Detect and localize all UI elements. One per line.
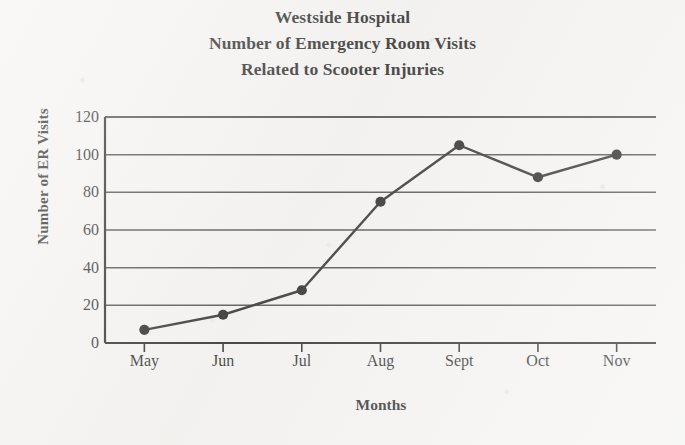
x-axis-tick-labels: MayJunJulAugSeptOctNov <box>0 352 685 378</box>
data-point-Jun <box>218 310 228 320</box>
x-tick-label-Jun: Jun <box>212 352 234 370</box>
x-axis-ticks <box>144 343 616 352</box>
data-point-Oct <box>533 172 543 182</box>
data-point-Aug <box>375 197 385 207</box>
data-point-Jul <box>297 285 307 295</box>
series-line-er-visits <box>144 145 616 330</box>
data-point-May <box>139 325 149 335</box>
x-tick-label-Sept: Sept <box>445 352 473 370</box>
x-axis-title: Months <box>105 396 657 414</box>
data-point-Nov <box>612 150 622 160</box>
x-tick-label-May: May <box>130 352 159 370</box>
x-tick-label-Oct: Oct <box>526 352 549 370</box>
data-series-line <box>144 145 616 330</box>
line-chart-figure: Westside Hospital Number of Emergency Ro… <box>0 0 685 445</box>
x-tick-label-Jul: Jul <box>292 352 311 370</box>
plot-area <box>0 0 685 445</box>
gridlines <box>105 117 656 343</box>
x-tick-label-Aug: Aug <box>367 352 395 370</box>
x-tick-label-Nov: Nov <box>603 352 631 370</box>
data-point-Sept <box>454 140 464 150</box>
